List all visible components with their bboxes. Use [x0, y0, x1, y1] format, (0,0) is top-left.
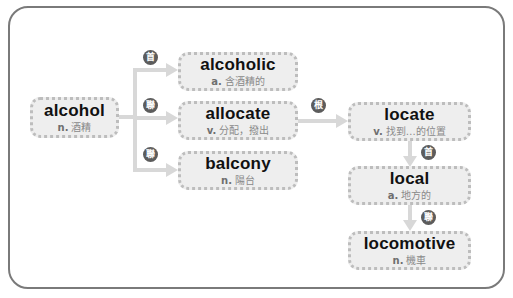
badge-link-balcony: 聯	[143, 147, 158, 162]
pos-local: a.	[388, 190, 399, 201]
meaning-locate: 找到…的位置	[386, 126, 446, 137]
arrow-icon	[166, 63, 178, 77]
meaning-local: 地方的	[401, 190, 431, 201]
arrow-icon	[403, 220, 417, 231]
node-alcohol: alcohol n.酒精	[30, 97, 119, 138]
node-locomotive: locomotive n.機車	[348, 231, 471, 270]
node-balcony: balcony n.陽台	[178, 151, 298, 190]
word-locomotive: locomotive	[364, 235, 456, 253]
pos-alcohol: n.	[58, 122, 69, 133]
badge-root-locate: 根	[311, 98, 326, 113]
badge-prefix-local: 首	[421, 145, 436, 160]
meaning-locomotive: 機車	[406, 255, 426, 266]
badge-prefix-alcoholic: 首	[143, 50, 158, 65]
node-locate: locate v.找到…的位置	[348, 102, 471, 141]
arrow-icon	[336, 114, 348, 128]
node-local: local a.地方的	[348, 166, 471, 205]
word-alcoholic: alcoholic	[200, 56, 276, 74]
definition-local: a.地方的	[388, 189, 432, 202]
pos-balcony: n.	[221, 175, 232, 186]
word-locate: locate	[384, 106, 434, 124]
word-alcohol: alcohol	[44, 102, 105, 120]
definition-alcohol: n.酒精	[58, 121, 92, 134]
node-alcoholic: alcoholic a.含酒精的	[178, 52, 298, 91]
arrow-icon	[166, 163, 178, 177]
pos-allocate: v.	[207, 125, 217, 136]
meaning-balcony: 陽台	[235, 175, 255, 186]
node-allocate: allocate v.分配，撥出	[178, 101, 298, 140]
meaning-alcoholic: 含酒精的	[225, 76, 265, 87]
word-balcony: balcony	[205, 155, 271, 173]
meaning-alcohol: 酒精	[71, 122, 91, 133]
pos-alcoholic: a.	[211, 76, 222, 87]
arrow-icon	[166, 111, 178, 125]
word-allocate: allocate	[206, 105, 271, 123]
meaning-allocate: 分配，撥出	[219, 125, 269, 136]
definition-balcony: n.陽台	[221, 174, 255, 187]
badge-link-locomotive: 聯	[421, 210, 436, 225]
pos-locomotive: n.	[393, 255, 404, 266]
badge-link-allocate: 聯	[143, 98, 158, 113]
definition-allocate: v.分配，撥出	[207, 124, 270, 137]
word-local: local	[390, 170, 430, 188]
pos-locate: v.	[373, 126, 383, 137]
definition-alcoholic: a.含酒精的	[211, 75, 265, 88]
definition-locomotive: n.機車	[393, 254, 427, 267]
definition-locate: v.找到…的位置	[373, 125, 446, 138]
